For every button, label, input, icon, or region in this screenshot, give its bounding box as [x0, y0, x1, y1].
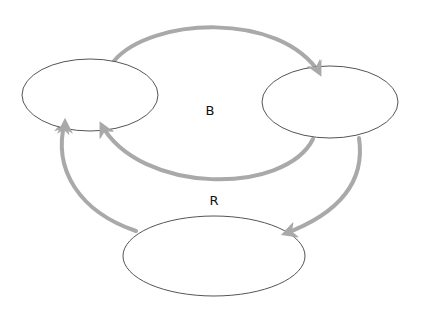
loop-label-balancing: B	[206, 103, 215, 118]
node-left	[22, 59, 158, 131]
node-right	[262, 66, 398, 138]
causal-loop-diagram: B R	[0, 0, 421, 314]
arrow-bottom-to-left	[62, 121, 136, 231]
arrow-right-to-bottom	[284, 138, 360, 234]
loop-label-reinforcing: R	[209, 193, 218, 208]
arrow-right-to-left	[101, 124, 313, 179]
arrow-left-to-right	[114, 27, 320, 74]
node-bottom	[123, 216, 305, 296]
